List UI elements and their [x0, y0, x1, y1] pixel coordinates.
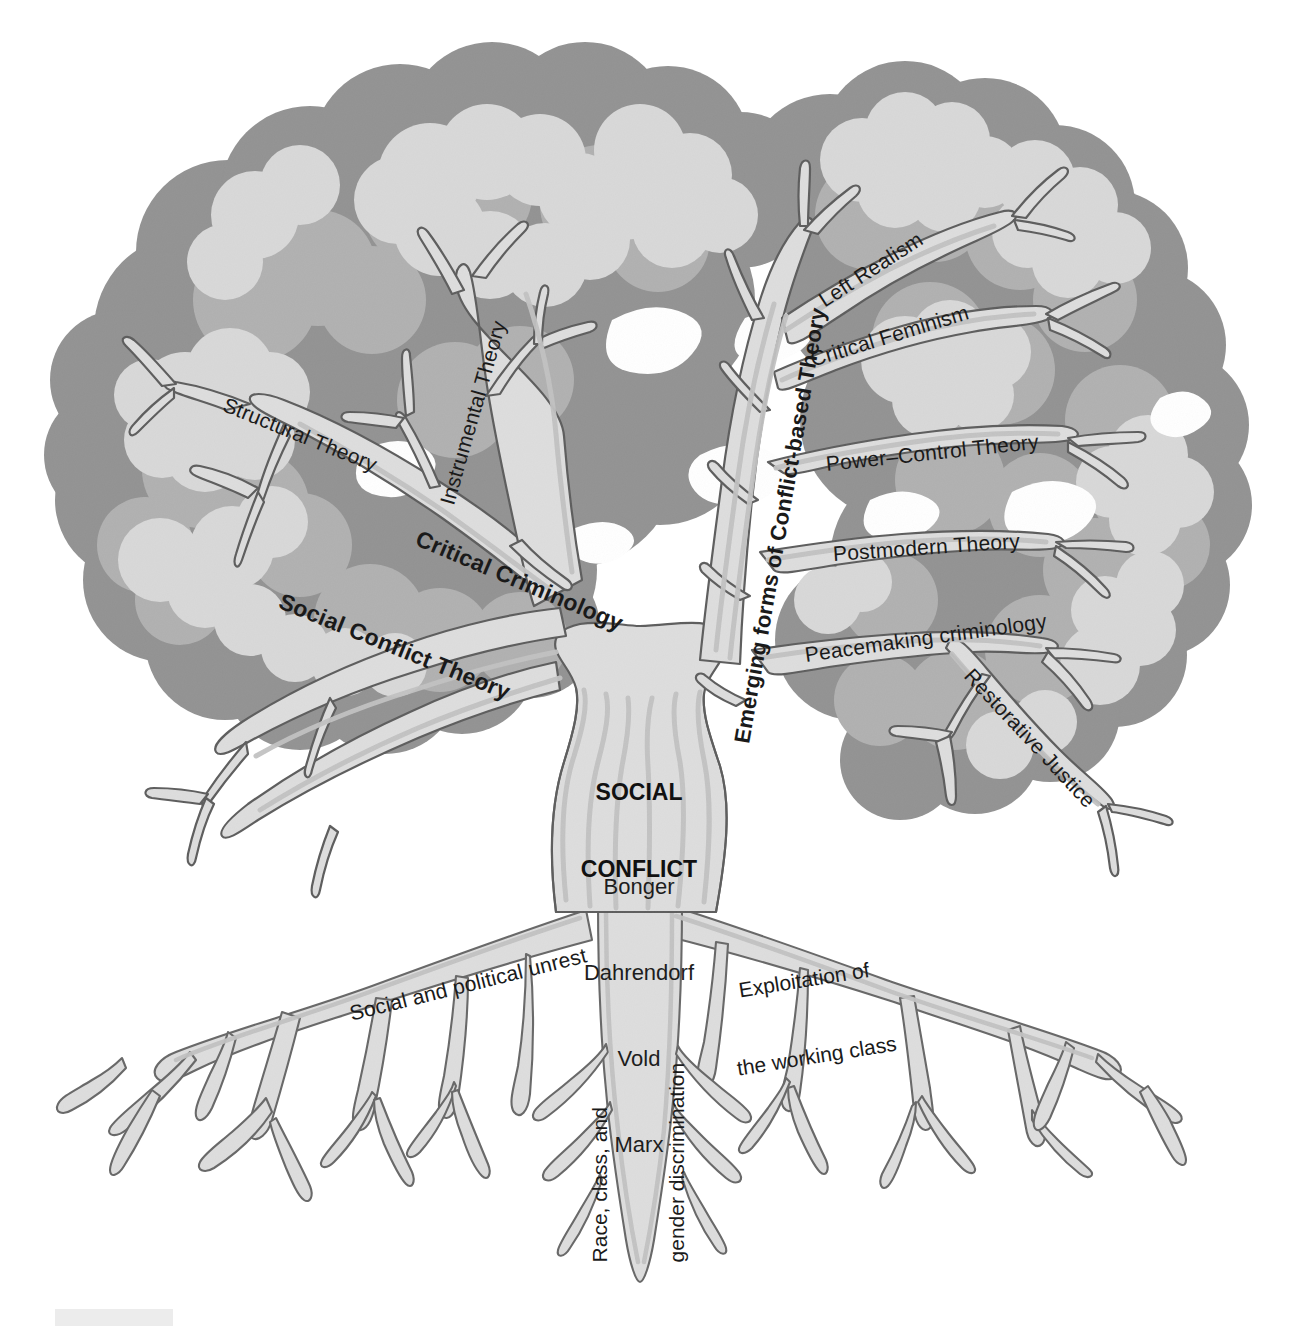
root-label-exploitation-line1: Exploitation of — [737, 955, 886, 1003]
root-label-exploitation-line2: the working class — [735, 1031, 898, 1081]
theorist-bonger: Bonger — [554, 873, 724, 902]
root-label-race-class-and-gender-discrimination: Race, class, and gender discrimination — [536, 1063, 741, 1263]
figure-canvas: Structural Theory Instrumental Theory Cr… — [0, 0, 1295, 1332]
trunk-core-label-line1: SOCIAL — [554, 780, 724, 806]
footer-swatch-bar — [55, 1309, 173, 1326]
root-label-exploitation-of-the-working-class: Exploitation of the working class — [729, 904, 906, 1129]
root-label-race-class-line1: Race, class, and — [587, 1063, 613, 1263]
root-label-race-class-line2: gender discrimination — [664, 1063, 690, 1263]
